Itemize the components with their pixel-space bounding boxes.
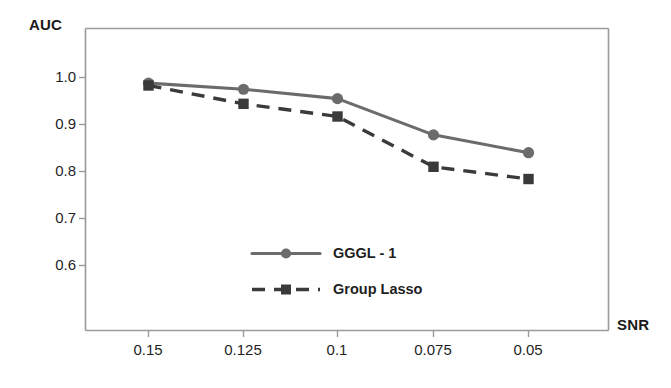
data-point [238, 84, 249, 95]
y-tick-label: 0.6 [16, 256, 76, 273]
legend-label-gggl-1: GGGL - 1 [333, 245, 396, 261]
data-point [238, 99, 248, 109]
y-axis-ticks [79, 78, 86, 266]
data-point [143, 80, 153, 90]
y-tick-label: 1.0 [16, 68, 76, 85]
x-tick-label: 0.05 [483, 341, 573, 358]
chart-figure: AUC SNR 1.0 0.9 0.8 0.7 0.6 0.15 0.125 0… [0, 0, 671, 388]
y-tick-label: 0.7 [16, 209, 76, 226]
x-axis-title: SNR [617, 316, 649, 333]
data-point [332, 111, 342, 121]
data-point [332, 93, 343, 104]
legend-label-group-lasso: Group Lasso [333, 281, 422, 297]
legend-swatches [252, 248, 320, 294]
legend-marker-gggl-1 [281, 248, 291, 258]
y-axis-title: AUC [29, 16, 62, 33]
x-tick-label: 0.125 [198, 341, 288, 358]
data-point [523, 174, 533, 184]
plot-canvas [0, 0, 671, 388]
data-point [428, 129, 439, 140]
y-tick-label: 0.9 [16, 115, 76, 132]
x-tick-label: 0.075 [388, 341, 478, 358]
data-point [523, 147, 534, 158]
x-axis-ticks [149, 331, 529, 338]
legend-marker-group-lasso [281, 285, 291, 295]
y-tick-label: 0.8 [16, 162, 76, 179]
x-tick-label: 0.1 [292, 341, 382, 358]
data-point [428, 162, 438, 172]
x-tick-label: 0.15 [103, 341, 193, 358]
